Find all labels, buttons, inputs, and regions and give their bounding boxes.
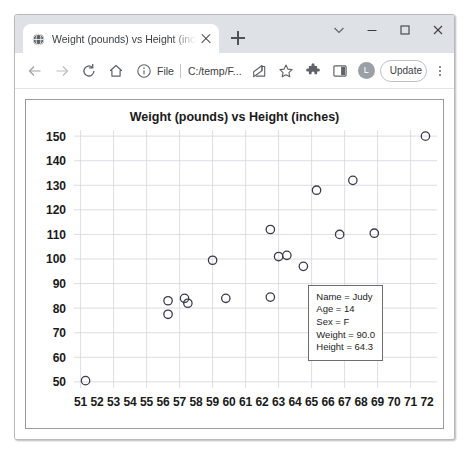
x-tick-label: 51 (74, 395, 88, 409)
x-tick-label: 69 (371, 395, 385, 409)
tab-title: Weight (pounds) vs Height (inch (52, 33, 197, 45)
url-scheme-label: File (157, 65, 174, 77)
data-point[interactable] (299, 262, 307, 270)
tooltip-line: Height = 64.3 (316, 341, 375, 354)
x-tick-label: 58 (189, 395, 203, 409)
tooltip-line: Age = 14 (316, 303, 375, 316)
extensions-puzzle-icon[interactable] (301, 58, 326, 83)
y-tick-label: 100 (46, 252, 66, 266)
x-tick-label: 66 (321, 395, 335, 409)
info-circle-icon[interactable] (136, 63, 152, 79)
tooltip-line: Weight = 90.0 (316, 329, 375, 342)
close-window-icon[interactable] (421, 15, 454, 45)
url-text[interactable]: C:/temp/F... (188, 65, 242, 77)
browser-tab[interactable]: Weight (pounds) vs Height (inch (23, 24, 219, 53)
y-tick-label: 150 (46, 130, 66, 144)
chevron-down-icon[interactable] (322, 15, 355, 45)
x-tick-label: 67 (338, 395, 352, 409)
x-tick-label: 53 (107, 395, 121, 409)
share-icon[interactable] (247, 58, 272, 83)
new-tab-button[interactable] (225, 25, 251, 51)
x-tick-label: 63 (272, 395, 286, 409)
x-tick-label: 59 (206, 395, 220, 409)
y-tick-label: 110 (47, 228, 67, 242)
globe-icon (32, 32, 45, 45)
x-tick-label: 70 (387, 395, 401, 409)
update-button-label: Update (390, 65, 422, 76)
x-tick-label: 57 (173, 395, 187, 409)
x-tick-label: 72 (420, 395, 434, 409)
y-tick-label: 70 (53, 326, 67, 340)
y-tick-label: 140 (46, 154, 66, 168)
x-tick-label: 64 (288, 395, 302, 409)
x-tick-label: 60 (222, 395, 236, 409)
omnibox-divider (180, 64, 181, 78)
screen: Weight (pounds) vs Height (inch (0, 0, 469, 455)
window-controls (322, 15, 454, 45)
y-tick-label: 90 (53, 277, 67, 291)
x-tick-label: 65 (305, 395, 319, 409)
browser-window: Weight (pounds) vs Height (inch (14, 14, 455, 440)
chrome-menu-icon[interactable] (433, 63, 447, 79)
avatar[interactable]: L (358, 62, 375, 79)
y-tick-label: 60 (53, 351, 67, 365)
address-bar[interactable]: File C:/temp/F... (136, 58, 243, 83)
data-point[interactable] (312, 186, 320, 194)
tooltip-line: Sex = F (316, 316, 375, 329)
data-point[interactable] (222, 294, 230, 302)
x-tick-label: 61 (239, 395, 253, 409)
x-tick-label: 68 (354, 395, 368, 409)
data-point[interactable] (164, 297, 172, 305)
x-tick-label: 52 (90, 395, 104, 409)
x-axis-tick-labels: 5152535455565758596061626364656667686970… (74, 395, 434, 409)
y-tick-label: 130 (46, 179, 66, 193)
data-point-tooltip: Name = JudyAge = 14Sex = FWeight = 90.0H… (308, 285, 383, 361)
back-arrow-icon[interactable] (22, 58, 47, 83)
update-button[interactable]: Update (380, 60, 427, 82)
data-point[interactable] (283, 251, 291, 259)
tooltip-line: Name = Judy (316, 291, 375, 304)
minimize-icon[interactable] (355, 15, 388, 45)
home-icon[interactable] (103, 58, 128, 83)
data-point[interactable] (164, 310, 172, 318)
maximize-icon[interactable] (388, 15, 421, 45)
x-tick-label: 56 (156, 395, 170, 409)
reload-icon[interactable] (76, 58, 101, 83)
scatter-plot: 5060708090100110120130140150515253545556… (26, 100, 445, 418)
bookmark-star-icon[interactable] (274, 58, 299, 83)
forward-arrow-icon[interactable] (49, 58, 74, 83)
data-point[interactable] (266, 293, 274, 301)
y-tick-label: 80 (53, 302, 67, 316)
x-tick-label: 71 (404, 395, 418, 409)
x-tick-label: 54 (123, 395, 137, 409)
side-panel-icon[interactable] (328, 58, 353, 83)
data-point[interactable] (266, 225, 274, 233)
y-tick-label: 120 (46, 203, 66, 217)
close-icon[interactable] (199, 32, 213, 46)
tab-strip: Weight (pounds) vs Height (inch (15, 15, 454, 53)
y-axis-tick-labels: 5060708090100110120130140150 (46, 130, 66, 390)
x-tick-label: 62 (255, 395, 269, 409)
chart-container: Weight (pounds) vs Height (inches) 50607… (25, 99, 444, 429)
x-tick-label: 55 (140, 395, 154, 409)
data-point[interactable] (349, 176, 357, 184)
y-tick-label: 50 (53, 375, 67, 389)
browser-toolbar: File C:/temp/F... (15, 53, 454, 89)
page-content: Weight (pounds) vs Height (inches) 50607… (15, 89, 454, 439)
data-point[interactable] (81, 376, 89, 384)
